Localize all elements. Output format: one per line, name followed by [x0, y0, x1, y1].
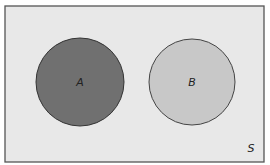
- venn-diagram: A B S: [0, 0, 270, 165]
- universe-label: S: [248, 142, 255, 155]
- set-b-label: B: [188, 76, 196, 89]
- set-a-label: A: [75, 76, 84, 89]
